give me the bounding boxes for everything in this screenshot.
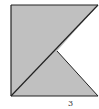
geometry-diagram <box>0 0 99 109</box>
side-length-label: 3 <box>68 100 73 108</box>
